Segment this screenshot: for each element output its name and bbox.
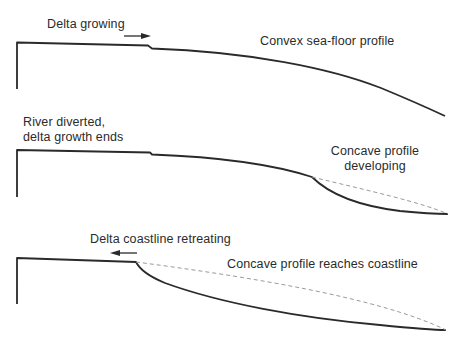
label-convex-sea-floor-profile: Convex sea-floor profile [260, 34, 394, 48]
label-river-diverted: River diverted, [23, 115, 105, 129]
panel-1-profile-line [17, 43, 445, 117]
label-delta-coastline-retreating: Delta coastline retreating [90, 232, 231, 246]
label-developing: developing [330, 159, 420, 173]
label-delta-growth-ends: delta growth ends [23, 130, 123, 144]
panel-3-arrow-left-icon [110, 250, 137, 256]
panel-3-former-profile-dashed [136, 262, 446, 330]
label-delta-growing: Delta growing [47, 17, 125, 31]
label-concave-profile: Concave profile [330, 144, 420, 158]
panel-1-arrow-right-icon [124, 33, 151, 39]
label-concave-profile-reaches-coastline: Concave profile reaches coastline [227, 257, 418, 271]
